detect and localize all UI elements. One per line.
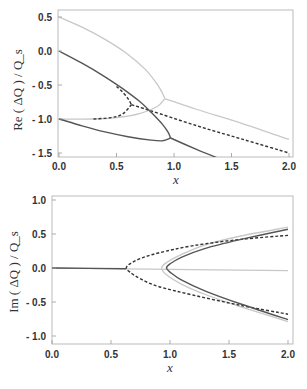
y-tick-label: - 0.5	[32, 80, 52, 91]
x-tick-label: 1.5	[225, 161, 239, 172]
y-tick-label: - 1.5	[32, 148, 52, 159]
re-ylabel: Re ( ΔQ ) / Q_s	[10, 49, 25, 131]
x-tick-label: 1.5	[222, 349, 236, 360]
re-plot-frame	[58, 10, 293, 157]
x-tick-label: 1.0	[163, 349, 177, 360]
y-tick-label: 0.5	[38, 12, 52, 23]
x-tick-label: 0.5	[110, 161, 124, 172]
y-tick-label: 1.0	[32, 195, 46, 206]
y-tick-label: - 0.5	[26, 297, 46, 308]
series-dashed-tail	[131, 105, 289, 153]
series-light-grey-upper	[59, 17, 165, 99]
series-dark-tail	[171, 138, 226, 161]
im-panel: 1.00.50.0- 0.5- 1.0 0.00.51.01.52.0 Im (…	[6, 195, 295, 376]
x-tick-label: 2.0	[281, 349, 295, 360]
x-tick-label: 0.0	[45, 349, 59, 360]
series-light-grey-branch	[162, 227, 288, 322]
series-light-grey-tail	[165, 99, 289, 140]
series-light-grey-lower	[59, 99, 165, 119]
x-tick-label: 0.5	[104, 349, 118, 360]
chart-figure: 0.50.0- 0.5- 1.0- 1.5 0.00.51.01.52.0 Re…	[0, 0, 307, 389]
x-tick-label: 2.0	[282, 161, 296, 172]
series-dark-flat	[52, 268, 126, 269]
y-tick-label: 0.0	[32, 263, 46, 274]
series-dark-branch	[167, 229, 289, 320]
re-panel: 0.50.0- 0.5- 1.0- 1.5 0.00.51.01.52.0 Re…	[10, 10, 296, 187]
im-xlabel: x	[166, 360, 173, 375]
series-dark-lower	[59, 119, 171, 141]
re-xlabel: x	[172, 172, 179, 187]
y-tick-label: 0.0	[38, 46, 52, 57]
x-tick-label: 0.0	[52, 161, 66, 172]
series-dark-upper	[59, 51, 171, 138]
x-tick-label: 1.0	[167, 161, 181, 172]
y-tick-label: - 1.0	[26, 331, 46, 342]
im-ylabel: Im ( ΔQ ) / Q_s	[6, 231, 21, 313]
y-tick-label: 0.5	[32, 229, 46, 240]
y-tick-label: - 1.0	[32, 114, 52, 125]
